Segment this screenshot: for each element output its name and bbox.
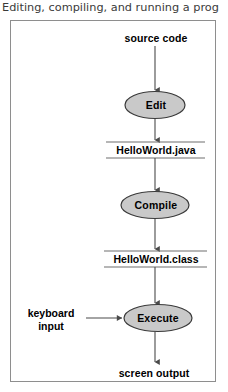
label-helloworld-java: HelloWorld.java <box>95 144 217 156</box>
label-keyboard-input-line2: input <box>14 320 88 333</box>
label-screen-output: screen output <box>92 367 216 379</box>
label-edit: Edit <box>125 99 187 111</box>
label-source-code: source code <box>98 32 214 44</box>
label-execute: Execute <box>122 312 194 324</box>
figure-caption: Editing, compiling, and running a prog <box>2 0 228 16</box>
label-compile: Compile <box>119 199 193 211</box>
label-keyboard-input-line1: keyboard <box>14 307 88 320</box>
figure-root: Editing, compiling, and running a prog <box>0 0 228 392</box>
label-helloworld-class: HelloWorld.class <box>93 253 219 265</box>
label-keyboard-input: keyboard input <box>14 307 88 333</box>
